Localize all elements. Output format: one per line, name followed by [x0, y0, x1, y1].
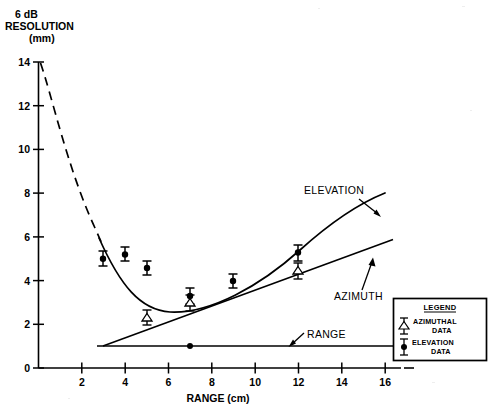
range-annotation-label: RANGE	[307, 328, 346, 340]
figure-container: 6 dB RESOLUTION (mm) 14 12 10	[0, 0, 494, 409]
y-axis-title-line-1: 6 dB	[15, 8, 38, 20]
y-tick-label-0: 0	[24, 362, 30, 374]
y-axis-title-line-3: (mm)	[29, 32, 55, 44]
x-tick-label-4: 4	[122, 376, 128, 388]
y-axis-title-line-2: RESOLUTION	[5, 20, 74, 32]
y-tick-label-10: 10	[18, 143, 30, 155]
x-tick-label-12: 12	[293, 376, 305, 388]
legend-label-azimuthal-line-1: AZIMUTHAL	[413, 317, 457, 326]
elevation-annotation-label: ELEVATION	[304, 184, 364, 196]
y-tick-label-6: 6	[24, 231, 30, 243]
legend: LEGEND AZIMUTHAL DATA	[394, 299, 487, 361]
x-tick-label-2: 2	[79, 376, 85, 388]
x-tick-label-8: 8	[209, 376, 215, 388]
range-data-point	[187, 343, 193, 349]
y-tick-label-12: 12	[18, 100, 30, 112]
y-tick-label-8: 8	[24, 187, 30, 199]
legend-label-azimuthal-line-2: DATA	[432, 326, 452, 335]
y-tick-label-2: 2	[24, 318, 30, 330]
x-tick-label-14: 14	[336, 376, 348, 388]
y-tick-label-4: 4	[24, 275, 30, 287]
x-tick-label-6: 6	[166, 376, 172, 388]
azimuth-annotation-label: AZIMUTH	[334, 290, 383, 302]
legend-label-elevation-line-2: DATA	[431, 347, 451, 356]
x-tick-label-10: 10	[249, 376, 261, 388]
legend-title: LEGEND	[423, 303, 456, 312]
legend-label-elevation-line-1: ELEVATION	[412, 338, 454, 347]
y-tick-label-14: 14	[18, 56, 30, 68]
x-tick-label-16: 16	[379, 376, 391, 388]
resolution-vs-range-chart: 6 dB RESOLUTION (mm) 14 12 10	[0, 0, 494, 409]
x-axis-title: RANGE (cm)	[186, 392, 249, 404]
